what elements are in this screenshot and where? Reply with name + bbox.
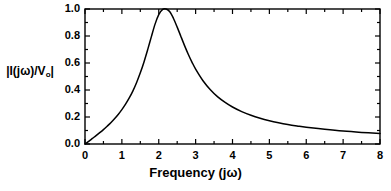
x-tick-label: 0 <box>73 150 97 161</box>
x-tick-label: 8 <box>368 150 391 161</box>
x-tick-label: 6 <box>294 150 318 161</box>
y-tick-label: 0.8 <box>46 30 80 41</box>
x-tick-label: 2 <box>147 150 171 161</box>
y-tick-label: 0.4 <box>46 84 80 95</box>
x-tick-label: 4 <box>221 150 245 161</box>
x-tick-label: 1 <box>110 150 134 161</box>
y-tick-label: 0.0 <box>46 138 80 149</box>
resonance-curve-plot <box>0 0 391 191</box>
y-axis-label: |I(jω)/Vo| <box>1 64 59 78</box>
figure-container: 0.00.20.40.60.81.0 012345678 |I(jω)/Vo| … <box>0 0 391 191</box>
x-tick-label: 7 <box>331 150 355 161</box>
y-tick-label: 0.2 <box>46 111 80 122</box>
plot-frame <box>85 9 380 144</box>
x-tick-label: 3 <box>184 150 208 161</box>
x-tick-label: 5 <box>257 150 281 161</box>
x-axis-label: Frequency (jω) <box>0 165 391 180</box>
y-tick-label: 1.0 <box>46 3 80 14</box>
